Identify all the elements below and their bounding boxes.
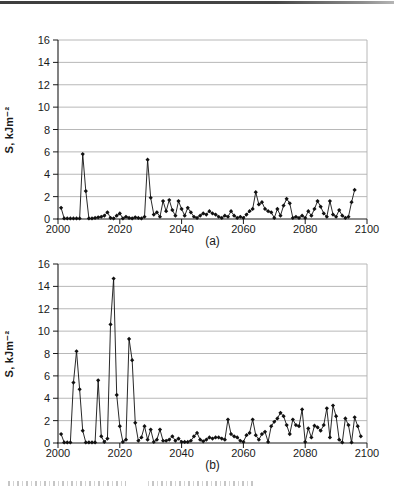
svg-text:6: 6 xyxy=(44,370,50,382)
svg-text:14: 14 xyxy=(38,56,50,68)
svg-text:16: 16 xyxy=(38,258,50,270)
svg-text:4: 4 xyxy=(44,168,50,180)
svg-text:10: 10 xyxy=(38,325,50,337)
svg-text:2: 2 xyxy=(44,191,50,203)
figure-canvas: S, kJm⁻² 0246810121416200020202040206020… xyxy=(0,0,394,488)
panel-caption-b: (b) xyxy=(58,458,367,474)
line-plot-a: 0246810121416200020202040206020802100 xyxy=(0,10,394,236)
svg-text:14: 14 xyxy=(38,280,50,292)
svg-text:12: 12 xyxy=(38,303,50,315)
page-top-rule xyxy=(0,1,394,4)
cropped-caption-fragment xyxy=(8,481,254,486)
svg-text:6: 6 xyxy=(44,146,50,158)
svg-text:4: 4 xyxy=(44,392,50,404)
svg-text:2: 2 xyxy=(44,415,50,427)
line-plot-b: 0246810121416200020202040206020802100 xyxy=(0,234,394,460)
chart-panel-a: S, kJm⁻² 0246810121416200020202040206020… xyxy=(0,10,394,254)
svg-text:8: 8 xyxy=(44,124,50,136)
svg-text:10: 10 xyxy=(38,101,50,113)
svg-text:8: 8 xyxy=(44,348,50,360)
svg-text:16: 16 xyxy=(38,34,50,46)
chart-panel-b: S, kJm⁻² 0246810121416200020202040206020… xyxy=(0,234,394,478)
svg-text:12: 12 xyxy=(38,79,50,91)
